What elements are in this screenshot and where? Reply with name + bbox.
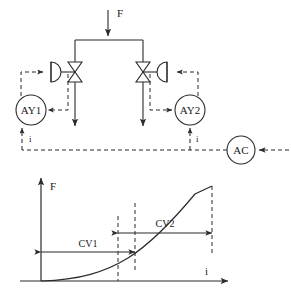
instrument-label-ac: AC (233, 144, 248, 156)
chart-y-axis-label: F (50, 180, 56, 192)
diagram-canvas: F (0, 0, 291, 304)
header-pipe (75, 40, 143, 62)
instrument-bubble-ay1[interactable]: AY1 (16, 95, 46, 125)
instrument-label-ay1: AY1 (21, 104, 41, 116)
chart-range-cv1-label: CV1 (79, 238, 98, 249)
signal-label-left: i (29, 134, 32, 144)
instrument-label-ay2: AY2 (180, 104, 200, 116)
inlet-flow-label: F (117, 7, 123, 19)
instrument-bubble-ay2[interactable]: AY2 (175, 95, 205, 125)
instrument-bubble-ac[interactable]: AC (227, 136, 255, 164)
chart-x-axis-label: i (205, 265, 208, 277)
chart-range-cv2-label: CV2 (156, 218, 175, 229)
signal-label-right: i (196, 134, 199, 144)
